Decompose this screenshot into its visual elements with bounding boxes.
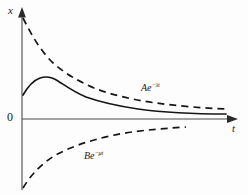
figure-container: x t 0 Ae−λt Be−μt [0,0,248,195]
upper-curve-label-base: Ae [141,82,152,93]
y-axis-label: x [8,5,13,16]
upper-curve-label-exponent: −λt [152,81,160,88]
lower-curve-label-base: Be [84,150,95,161]
y-axis-arrowhead [18,7,26,18]
x-axis-label: t [232,123,235,134]
plot-canvas [0,0,248,195]
upper-curve-label: Ae−λt [141,82,160,93]
origin-label: 0 [7,111,13,123]
upper-dashed-exponential-curve [23,18,225,109]
lower-curve-label: Be−μt [84,150,103,161]
lower-dashed-exponential-curve [23,127,186,188]
solid-resultant-curve [23,77,226,114]
lower-curve-label-exponent: −μt [95,149,103,156]
